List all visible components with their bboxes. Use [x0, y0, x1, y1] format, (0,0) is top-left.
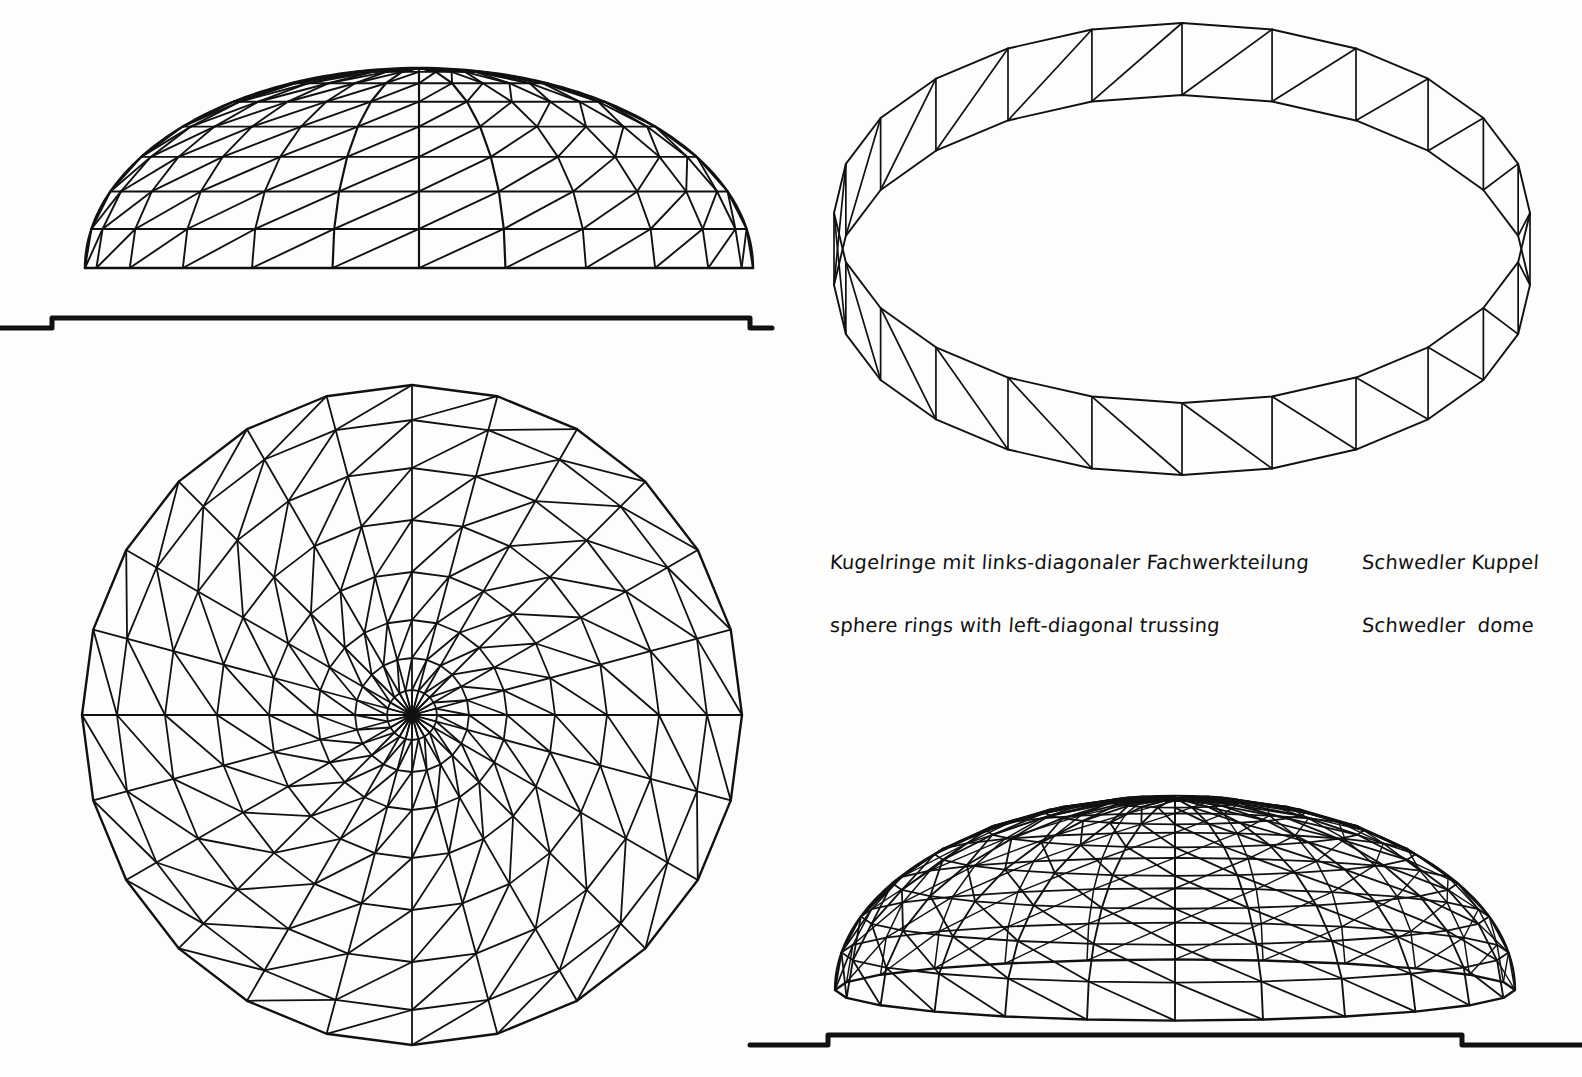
drawing-sheet	[0, 0, 1582, 1077]
diagonal-brace	[452, 72, 453, 83]
caption-left: Kugelringe mit links-diagonaler Fachwerk…	[830, 512, 1309, 657]
plan-diagonal	[697, 791, 698, 880]
diagonal-brace	[686, 157, 687, 192]
caption-right: Schwedler Kuppel Schwedler dome	[1362, 512, 1539, 657]
caption-left-german: Kugelringe mit links-diagonaler Fachwerk…	[829, 550, 1310, 575]
caption-right-german: Schwedler Kuppel	[1361, 550, 1540, 575]
view-plan-dome	[82, 385, 742, 1045]
persp-diagonal	[902, 890, 903, 931]
plan-diagonal	[247, 1000, 336, 1001]
caption-right-english: Schwedler dome	[1361, 613, 1540, 638]
plan-diagonal	[488, 429, 577, 430]
caption-left-english: sphere rings with left-diagonal trussing	[829, 613, 1310, 638]
plan-diagonal	[126, 550, 127, 639]
